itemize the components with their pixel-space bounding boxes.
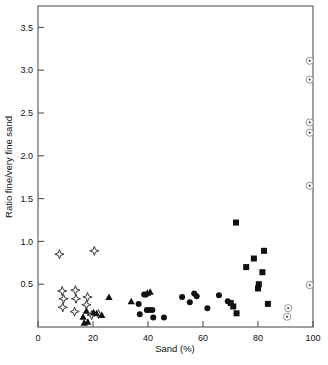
data-point-circle — [161, 315, 167, 321]
y-axis-ticks: 0.51.01.52.02.53.03.5 — [20, 23, 44, 290]
data-point-bullseye-dot — [309, 185, 311, 187]
data-point-circle — [136, 301, 142, 307]
data-point-bullseye-dot — [309, 284, 311, 286]
data-point-triangle — [105, 293, 112, 300]
series-open-star — [55, 246, 103, 319]
data-point-circle — [187, 299, 193, 305]
y-tick-label: 3.0 — [20, 65, 33, 75]
y-tick-label: 0.5 — [20, 279, 33, 289]
y-axis-title: Ratio fine/very fine sand — [3, 116, 14, 218]
data-point-star — [83, 292, 92, 301]
data-point-star — [71, 294, 80, 303]
data-point-circle — [216, 292, 222, 298]
data-point-triangle — [83, 307, 90, 314]
data-point-square — [234, 310, 240, 316]
data-series-layer — [55, 57, 313, 325]
x-tick-label: 100 — [305, 333, 320, 343]
y-tick-label: 3.5 — [20, 23, 33, 33]
x-axis-ticks: 020406080100 — [35, 321, 320, 343]
series-filled-square — [228, 220, 271, 317]
data-point-bullseye-dot — [286, 316, 288, 318]
data-point-square — [265, 301, 271, 307]
data-point-star — [59, 294, 68, 303]
data-point-square — [259, 269, 265, 275]
data-point-star — [58, 303, 67, 312]
data-point-bullseye-dot — [309, 132, 311, 134]
data-point-star — [58, 286, 67, 295]
data-point-bullseye-dot — [309, 121, 311, 123]
data-point-square — [251, 256, 257, 262]
data-point-bullseye-dot — [287, 307, 289, 309]
x-axis-title: Sand (%) — [155, 343, 195, 354]
data-point-circle — [194, 293, 200, 299]
plot-frame — [38, 6, 313, 327]
data-point-circle — [179, 294, 185, 300]
x-tick-label: 0 — [35, 333, 40, 343]
scatter-plot-figure: 0.51.01.52.02.53.03.5 020406080100 Sand … — [0, 0, 328, 365]
data-point-square — [261, 248, 267, 254]
y-tick-label: 2.5 — [20, 108, 33, 118]
data-point-square — [243, 264, 249, 270]
data-point-star — [90, 246, 99, 255]
y-tick-label: 2.0 — [20, 151, 33, 161]
data-point-triangle — [128, 298, 135, 305]
data-point-circle — [137, 311, 143, 317]
data-point-star — [55, 250, 64, 259]
y-tick-label: 1.5 — [20, 194, 33, 204]
data-point-circle — [204, 305, 210, 311]
data-point-star — [71, 286, 80, 295]
y-tick-label: 1.0 — [20, 237, 33, 247]
data-point-circle — [149, 307, 155, 313]
data-point-bullseye-dot — [309, 60, 311, 62]
x-tick-label: 40 — [143, 333, 153, 343]
data-point-circle — [143, 291, 149, 297]
data-point-star — [70, 307, 79, 316]
data-point-square — [256, 281, 262, 287]
x-tick-label: 20 — [88, 333, 98, 343]
x-tick-label: 80 — [253, 333, 263, 343]
data-point-circle — [150, 315, 156, 321]
data-point-square — [230, 303, 236, 309]
data-point-square — [233, 220, 239, 226]
x-tick-label: 60 — [198, 333, 208, 343]
plot-svg: 0.51.01.52.02.53.03.5 020406080100 Sand … — [0, 0, 328, 365]
data-point-triangle — [80, 313, 87, 320]
series-bullseye — [284, 57, 314, 320]
data-point-bullseye-dot — [309, 78, 311, 80]
